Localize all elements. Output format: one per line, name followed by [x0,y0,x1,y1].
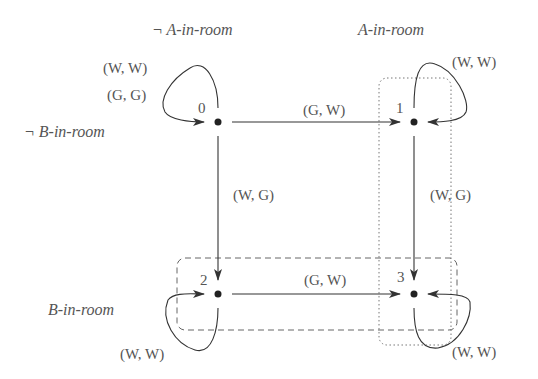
state-3-node [411,291,418,298]
edge-label-0-self-b: (G, G) [107,88,146,103]
state-0-label: 0 [198,101,206,116]
edge-1-self-loop [414,63,467,122]
state-1-node [411,119,418,126]
edge-label-3-self: (W, W) [452,345,496,360]
edge-label-0-to-1: (G, W) [303,103,345,118]
edge-3-self-loop [414,294,470,348]
edge-0-self-loop [163,66,218,122]
region-label-not-a-in-room: ¬ A-in-room [152,22,233,38]
region-label-b-in-room: B-in-room [48,302,114,318]
edge-2-self-loop [166,294,218,351]
edge-label-2-to-3: (G, W) [304,273,346,288]
edge-label-1-self: (W, W) [452,55,496,70]
region-label-a-in-room: A-in-room [358,22,424,38]
edge-label-1-to-3: (W, G) [430,188,471,203]
state-0-node [215,119,222,126]
edge-label-0-self-a: (W, W) [103,61,147,76]
state-2-node [215,291,222,298]
state-2-label: 2 [200,273,208,288]
region-label-not-b-in-room: ¬ B-in-room [24,124,105,140]
edge-label-2-self: (W, W) [120,347,164,362]
edge-label-0-to-2: (W, G) [233,188,274,203]
state-1-label: 1 [396,101,404,116]
state-3-label: 3 [397,270,405,285]
a-in-room-region-box [379,78,451,345]
